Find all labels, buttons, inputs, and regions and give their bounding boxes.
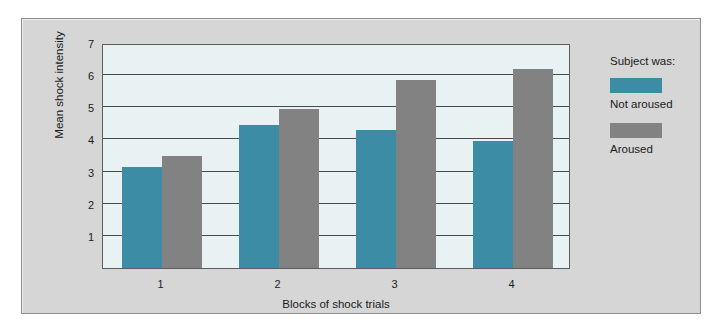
gridline-4 (103, 138, 569, 139)
y-tick-label-2: 2 (66, 200, 94, 211)
y-tick-label-7: 7 (66, 39, 94, 50)
bar-not-aroused-block-1 (122, 167, 162, 268)
x-tick-label-2: 2 (258, 279, 298, 290)
plot-area (102, 44, 570, 269)
legend-title: Subject was: (610, 55, 720, 67)
gridline-6 (103, 74, 569, 75)
legend: Subject was: Not arousedAroused (610, 55, 720, 168)
x-axis-label: Blocks of shock trials (102, 298, 570, 310)
y-tick-label-6: 6 (66, 71, 94, 82)
gridline-5 (103, 106, 569, 107)
bar-aroused-block-2 (279, 109, 319, 268)
y-tick-label-5: 5 (66, 103, 94, 114)
bar-aroused-block-1 (162, 156, 202, 269)
y-tick-label-3: 3 (66, 168, 94, 179)
bar-not-aroused-block-4 (473, 141, 513, 268)
legend-label-not-aroused: Not aroused (610, 98, 720, 110)
y-axis-label: Mean shock intensity (53, 10, 65, 160)
bar-not-aroused-block-2 (239, 125, 279, 268)
legend-swatch-aroused (610, 123, 662, 138)
y-tick-label-1: 1 (66, 232, 94, 243)
bar-not-aroused-block-3 (356, 130, 396, 268)
legend-entry-aroused: Aroused (610, 123, 720, 155)
y-tick-label-4: 4 (66, 135, 94, 146)
chart-panel: Mean shock intensity 7654321 1234 Blocks… (21, 18, 701, 314)
legend-swatch-not-aroused (610, 78, 662, 93)
x-tick-label-1: 1 (141, 279, 181, 290)
x-tick-label-3: 3 (375, 279, 415, 290)
chart-figure: Mean shock intensity 7654321 1234 Blocks… (0, 0, 722, 332)
legend-entry-not-aroused: Not aroused (610, 78, 720, 110)
legend-label-aroused: Aroused (610, 143, 720, 155)
bar-aroused-block-4 (513, 69, 553, 268)
bar-aroused-block-3 (396, 80, 436, 268)
x-tick-label-4: 4 (492, 279, 532, 290)
legend-entries: Not arousedAroused (610, 78, 720, 155)
